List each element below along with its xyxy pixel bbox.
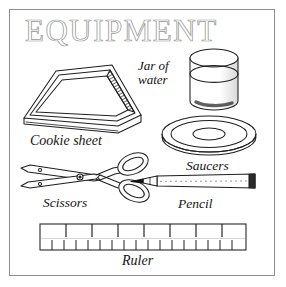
equipment-illustration-page: EQUIPMENT (0, 0, 286, 287)
label-jar-of-water-line2: water (138, 73, 169, 87)
label-saucers: Saucers (186, 159, 229, 173)
pencil-icon (131, 174, 255, 188)
label-ruler: Ruler (122, 254, 153, 269)
label-jar-of-water: Jar of water (138, 59, 169, 86)
jar-of-water-icon (190, 49, 238, 110)
ruler-icon (40, 224, 246, 250)
label-jar-of-water-line1: Jar of (138, 59, 169, 73)
saucers-icon (162, 116, 256, 155)
label-scissors: Scissors (43, 196, 87, 210)
label-cookie-sheet: Cookie sheet (30, 134, 102, 149)
label-pencil: Pencil (178, 197, 212, 211)
cookie-sheet-icon (24, 65, 141, 133)
